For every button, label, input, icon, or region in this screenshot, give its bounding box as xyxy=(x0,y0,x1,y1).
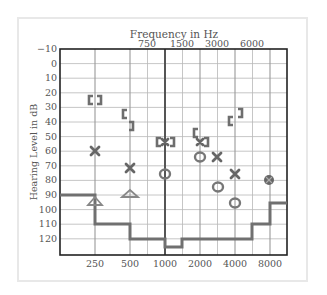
y-tick-labels: −10 0 10 20 30 40 50 60 70 80 90 100 110… xyxy=(37,43,57,244)
top-tick-6000: 6000 xyxy=(240,38,264,49)
y-tick: −10 xyxy=(37,43,57,54)
bracket-right-icon xyxy=(238,109,242,117)
bracket-right-icon xyxy=(170,138,174,146)
bracket-left-icon xyxy=(194,129,198,137)
bracket-right-icon xyxy=(97,96,101,104)
x-tick: 1000 xyxy=(153,258,177,269)
top-tick-3000: 3000 xyxy=(205,38,229,49)
y-axis-label: Hearing Level in dB xyxy=(28,104,39,201)
y-tick: 60 xyxy=(45,145,57,156)
y-tick: 50 xyxy=(45,131,57,142)
top-tick-750: 750 xyxy=(138,38,156,49)
x-marker-icon xyxy=(213,153,221,161)
y-tick: 110 xyxy=(39,218,57,229)
x-tick-labels: 250 500 1000 2000 4000 8000 xyxy=(86,258,282,269)
bracket-left-icon xyxy=(229,117,233,125)
y-tick: 20 xyxy=(45,87,57,98)
y-tick: 0 xyxy=(51,58,57,69)
bracket-left-icon xyxy=(157,138,161,146)
y-tick: 90 xyxy=(45,189,57,200)
top-tick-1500: 1500 xyxy=(170,38,194,49)
combined-marker-8000 xyxy=(264,175,274,185)
x-tick: 2000 xyxy=(188,258,212,269)
x-tick: 250 xyxy=(86,258,104,269)
x-tick: 4000 xyxy=(223,258,247,269)
y-tick: 80 xyxy=(45,174,57,185)
y-tick: 10 xyxy=(45,72,57,83)
y-tick: 30 xyxy=(45,101,57,112)
bracket-right-icon xyxy=(204,138,208,146)
bracket-left-icon xyxy=(89,96,93,104)
x-tick: 500 xyxy=(121,258,139,269)
y-tick: 70 xyxy=(45,160,57,171)
x-tick: 8000 xyxy=(258,258,282,269)
audiogram-chart: Frequency in Hz 750 1500 3000 6000 Heari… xyxy=(0,0,327,295)
y-tick: 40 xyxy=(45,116,57,127)
y-tick: 120 xyxy=(39,233,57,244)
y-tick: 100 xyxy=(39,204,57,215)
bracket-left-icon xyxy=(123,110,127,118)
circle-marker-icon xyxy=(213,183,223,192)
